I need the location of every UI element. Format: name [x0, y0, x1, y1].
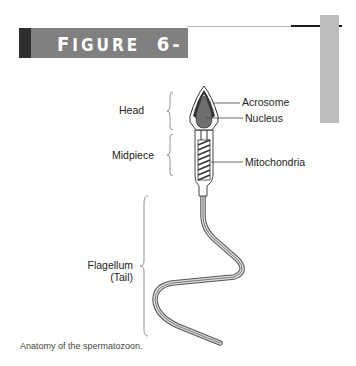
callout-nucleus: Nucleus — [245, 112, 283, 124]
flagellum-sublabel-text: (Tail) — [86, 271, 133, 283]
flagellum-brace — [140, 196, 148, 336]
flagellum-label-text: Flagellum — [86, 259, 133, 271]
callout-mitochondria: Mitochondria — [245, 156, 305, 168]
spermatozoon-diagram — [0, 0, 356, 366]
region-flagellum-label: Flagellum (Tail) — [86, 259, 133, 283]
midpiece-brace — [167, 134, 173, 176]
region-midpiece-label: Midpiece — [112, 149, 154, 161]
figure-caption: Anatomy of the spermatozoon. — [20, 341, 143, 351]
region-head-label: Head — [119, 104, 144, 116]
callout-acrosome: Acrosome — [242, 96, 289, 108]
mitochondria-helix — [198, 140, 210, 180]
head-brace — [167, 92, 173, 130]
